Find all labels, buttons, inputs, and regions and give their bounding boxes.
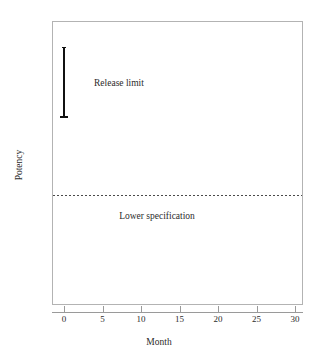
x-tick-label: 15 xyxy=(165,315,195,324)
lower-specification-line xyxy=(53,195,302,196)
x-tick-mark xyxy=(141,306,142,312)
release-limit-lower-cap xyxy=(60,116,68,118)
plot-area xyxy=(52,21,303,305)
x-axis-line xyxy=(52,312,303,313)
x-tick-mark xyxy=(180,306,181,312)
y-axis-title: Potency xyxy=(15,150,25,181)
x-axis-title: Month xyxy=(0,338,317,348)
release-limit-upper-cap xyxy=(62,47,66,48)
x-tick-label: 20 xyxy=(203,315,233,324)
x-tick-label: 0 xyxy=(49,315,79,324)
x-tick-mark xyxy=(103,306,104,312)
x-tick-mark xyxy=(64,306,65,312)
x-tick-label: 10 xyxy=(126,315,156,324)
x-tick-label: 25 xyxy=(242,315,272,324)
x-tick-label: 5 xyxy=(88,315,118,324)
x-tick-mark xyxy=(218,306,219,312)
release-limit-label: Release limit xyxy=(94,79,144,89)
x-tick-mark xyxy=(295,306,296,312)
release-limit-interval-bar xyxy=(63,47,65,118)
lower-specification-label: Lower specification xyxy=(0,212,317,222)
x-tick-label: 30 xyxy=(280,315,310,324)
x-tick-mark xyxy=(257,306,258,312)
stability-chart-figure: Release limit Lower specification 051015… xyxy=(0,0,317,360)
